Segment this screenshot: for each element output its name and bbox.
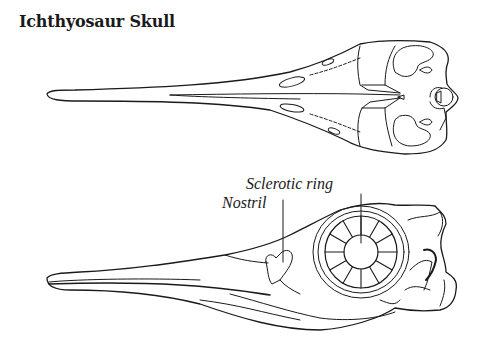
diagram-canvas: Ichthyosaur Skull [0, 0, 494, 355]
dorsal-view-skull [47, 41, 458, 154]
lateral-view-skull [47, 204, 456, 330]
sclerotic-ring-label: Sclerotic ring [246, 175, 333, 193]
nostril-label: Nostril [222, 194, 266, 212]
